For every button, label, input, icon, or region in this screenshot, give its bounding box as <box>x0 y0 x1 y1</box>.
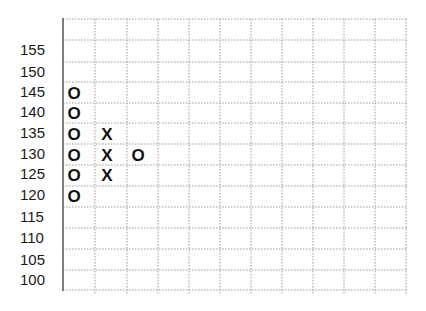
y-tick-140: 140 <box>20 104 56 120</box>
o-marker-col1-125: O <box>65 167 83 184</box>
y-tick-105: 105 <box>20 252 56 268</box>
y-tick-150: 150 <box>20 64 56 80</box>
o-marker-col1-130: O <box>65 147 83 164</box>
y-tick-125: 125 <box>20 166 56 182</box>
o-marker-col1-135: O <box>65 126 83 143</box>
o-marker-col1-120: O <box>65 188 83 205</box>
y-tick-135: 135 <box>20 125 56 141</box>
y-tick-130: 130 <box>20 146 56 162</box>
y-tick-100: 100 <box>20 272 56 288</box>
y-tick-145: 145 <box>20 84 56 100</box>
y-tick-110: 110 <box>20 230 56 246</box>
y-tick-120: 120 <box>20 187 56 203</box>
point-and-figure-chart <box>0 0 426 311</box>
y-tick-155: 155 <box>20 42 56 58</box>
o-marker-col3-130: O <box>129 147 147 164</box>
o-marker-col1-140: O <box>65 105 83 122</box>
o-marker-col1-145: O <box>65 85 83 102</box>
x-marker-col2-130: X <box>98 147 116 164</box>
y-tick-115: 115 <box>20 209 56 225</box>
x-marker-col2-135: X <box>98 126 116 143</box>
x-marker-col2-125: X <box>98 167 116 184</box>
